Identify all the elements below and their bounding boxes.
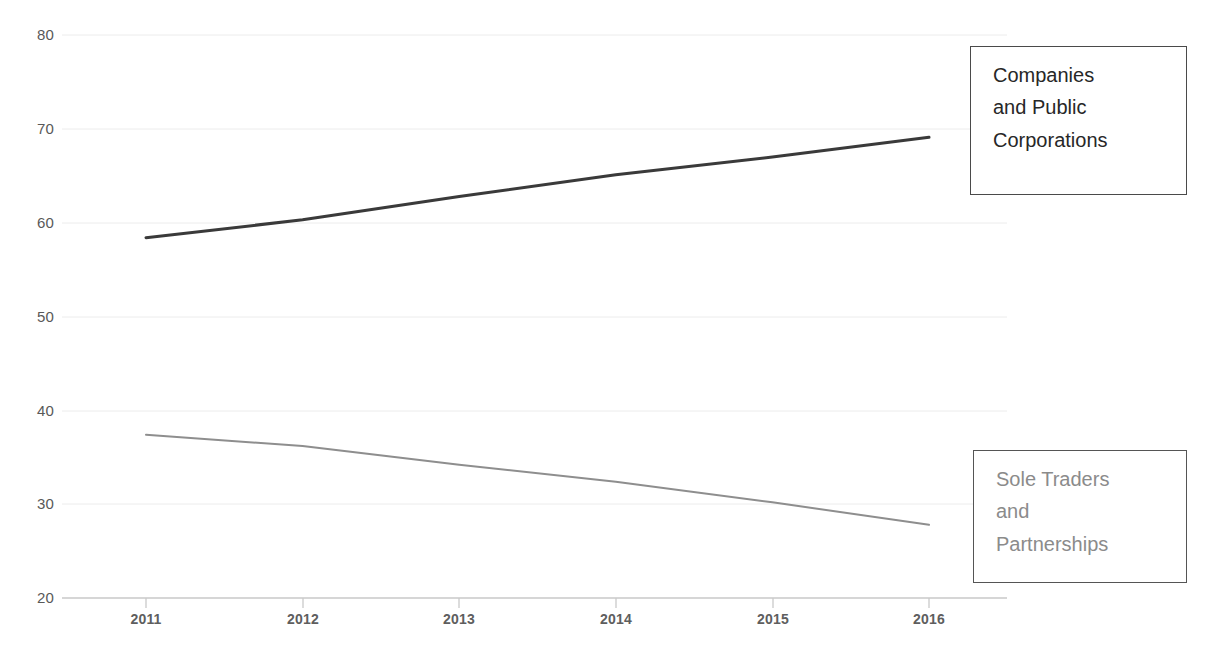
y-tick-label-40: 40 bbox=[14, 402, 54, 419]
legend-primary-line-3: Corporations bbox=[993, 124, 1168, 156]
x-tick-label-2015: 2015 bbox=[733, 611, 813, 627]
x-tick-label-2016: 2016 bbox=[889, 611, 969, 627]
y-tick-label-20: 20 bbox=[14, 589, 54, 606]
x-tick-label-2012: 2012 bbox=[263, 611, 343, 627]
x-axis-ticks bbox=[146, 598, 929, 608]
y-tick-label-30: 30 bbox=[14, 495, 54, 512]
legend-companies-and-public-corporations: Companies and Public Corporations bbox=[970, 46, 1187, 195]
x-tick-label-2014: 2014 bbox=[576, 611, 656, 627]
legend-primary-line-1: Companies bbox=[993, 59, 1168, 91]
legend-secondary-line-1: Sole Traders bbox=[996, 463, 1168, 495]
legend-sole-traders-and-partnerships: Sole Traders and Partnerships bbox=[973, 450, 1187, 583]
gridlines bbox=[62, 35, 1007, 504]
y-tick-label-60: 60 bbox=[14, 214, 54, 231]
y-tick-label-80: 80 bbox=[14, 26, 54, 43]
legend-secondary-line-2: and bbox=[996, 495, 1168, 527]
x-tick-label-2013: 2013 bbox=[419, 611, 499, 627]
y-tick-label-70: 70 bbox=[14, 120, 54, 137]
line-chart: 80 70 60 50 40 30 20 2011 2012 2013 2014… bbox=[0, 0, 1218, 654]
legend-secondary-line-3: Partnerships bbox=[996, 528, 1168, 560]
x-tick-label-2011: 2011 bbox=[106, 611, 186, 627]
legend-primary-line-2: and Public bbox=[993, 91, 1168, 123]
series-line-sole-traders-and-partnerships bbox=[146, 435, 929, 525]
y-tick-label-50: 50 bbox=[14, 308, 54, 325]
